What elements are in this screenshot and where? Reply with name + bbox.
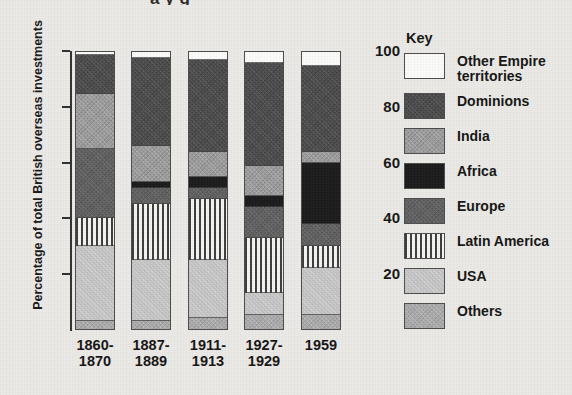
y-tick-label-40: 40	[364, 209, 400, 226]
x-label-1860-1870: 1860-1870	[64, 337, 126, 369]
legend-label-europe: Europe	[457, 198, 505, 214]
x-label-line: 1929	[233, 353, 295, 369]
legend-swatch-other-empire-territories	[404, 53, 445, 79]
y-tick-80	[62, 106, 70, 108]
bar-segment-other-empire-territories[interactable]	[189, 52, 227, 60]
bar-segment-europe[interactable]	[132, 188, 170, 205]
bar-segment-others[interactable]	[189, 318, 227, 329]
x-label-1911-1913: 1911-1913	[177, 337, 239, 369]
bar-segment-other-empire-territories[interactable]	[302, 52, 340, 66]
bar-segment-latin-america[interactable]	[245, 238, 283, 293]
bar-segment-dominions[interactable]	[76, 55, 114, 94]
bar-1927-1929[interactable]	[244, 51, 284, 330]
y-tick-label-80: 80	[364, 98, 400, 115]
legend-label-latin-america: Latin America	[457, 233, 549, 249]
legend-label-africa: Africa	[457, 163, 497, 179]
legend-swatch-others	[404, 303, 445, 329]
bar-segment-africa[interactable]	[189, 177, 227, 188]
bar-segment-usa[interactable]	[76, 246, 114, 321]
bar-segment-europe[interactable]	[189, 188, 227, 199]
legend-swatch-usa	[404, 268, 445, 294]
bar-segment-usa[interactable]	[302, 268, 340, 315]
bar-segment-others[interactable]	[245, 315, 283, 329]
legend: Key Other Empire territoriesDominionsInd…	[404, 30, 572, 338]
chart-plot-area: Percentage of total British overseas inv…	[0, 0, 400, 395]
y-tick-100	[62, 50, 70, 52]
y-tick-label-60: 60	[364, 154, 400, 171]
legend-swatch-latin-america	[404, 233, 445, 259]
bar-segment-africa[interactable]	[245, 196, 283, 207]
legend-swatch-europe	[404, 198, 445, 224]
bar-segment-dominions[interactable]	[132, 58, 170, 147]
legend-item-africa[interactable]: Africa	[404, 163, 572, 189]
legend-item-others[interactable]: Others	[404, 303, 572, 329]
bar-segment-india[interactable]	[132, 146, 170, 182]
bar-segment-dominions[interactable]	[302, 66, 340, 152]
x-label-line: 1860-	[64, 337, 126, 353]
bar-segment-africa[interactable]	[302, 163, 340, 224]
legend-item-india[interactable]: India	[404, 128, 572, 154]
bar-segment-europe[interactable]	[76, 149, 114, 218]
x-label-line: 1913	[177, 353, 239, 369]
legend-label-india: India	[457, 128, 490, 144]
x-label-line: 1870	[64, 353, 126, 369]
legend-label-dominions: Dominions	[457, 93, 529, 109]
bar-1911-1913[interactable]	[188, 51, 228, 330]
bar-segment-dominions[interactable]	[189, 60, 227, 151]
bar-1959[interactable]	[301, 51, 341, 330]
legend-item-usa[interactable]: USA	[404, 268, 572, 294]
legend-items: Other Empire territoriesDominionsIndiaAf…	[404, 53, 572, 329]
legend-item-dominions[interactable]: Dominions	[404, 93, 572, 119]
x-label-line: 1911-	[177, 337, 239, 353]
legend-swatch-africa	[404, 163, 445, 189]
bar-1887-1889[interactable]	[131, 51, 171, 330]
y-tick-label-100: 100	[364, 42, 400, 59]
legend-item-other-empire-territories[interactable]: Other Empire territories	[404, 53, 572, 84]
bar-segment-other-empire-territories[interactable]	[245, 52, 283, 63]
legend-item-latin-america[interactable]: Latin America	[404, 233, 572, 259]
legend-title: Key	[406, 30, 572, 46]
bar-segment-others[interactable]	[302, 315, 340, 329]
bar-segment-india[interactable]	[189, 152, 227, 177]
y-axis-line	[70, 51, 72, 331]
x-label-line: 1927-	[233, 337, 295, 353]
x-label-1959: 1959	[290, 337, 352, 353]
x-label-1927-1929: 1927-1929	[233, 337, 295, 369]
bar-segment-latin-america[interactable]	[76, 218, 114, 246]
y-tick-20	[62, 273, 70, 275]
bar-segment-usa[interactable]	[189, 260, 227, 318]
legend-label-others: Others	[457, 303, 502, 319]
legend-item-europe[interactable]: Europe	[404, 198, 572, 224]
x-label-line: 1889	[120, 353, 182, 369]
bar-segment-india[interactable]	[245, 166, 283, 196]
legend-swatch-dominions	[404, 93, 445, 119]
bar-segment-latin-america[interactable]	[189, 199, 227, 260]
bar-segment-europe[interactable]	[302, 224, 340, 246]
bar-segment-others[interactable]	[76, 321, 114, 329]
bar-segment-dominions[interactable]	[245, 63, 283, 165]
bar-segment-europe[interactable]	[245, 207, 283, 237]
bar-segment-india[interactable]	[76, 94, 114, 149]
bar-segment-latin-america[interactable]	[132, 204, 170, 259]
y-tick-60	[62, 162, 70, 164]
y-tick-label-20: 20	[364, 265, 400, 282]
legend-label-other-empire-territories: Other Empire territories	[457, 53, 572, 84]
y-axis-title: Percentage of total British overseas inv…	[31, 0, 45, 338]
x-label-1887-1889: 1887-1889	[120, 337, 182, 369]
bar-segment-india[interactable]	[302, 152, 340, 163]
bar-segment-latin-america[interactable]	[302, 246, 340, 268]
bar-segment-others[interactable]	[132, 321, 170, 329]
legend-label-usa: USA	[457, 268, 487, 284]
y-tick-40	[62, 217, 70, 219]
bar-1860-1870[interactable]	[75, 51, 115, 330]
bar-segment-usa[interactable]	[245, 293, 283, 315]
x-label-line: 1887-	[120, 337, 182, 353]
bar-segment-usa[interactable]	[132, 260, 170, 321]
x-label-line: 1959	[290, 337, 352, 353]
legend-swatch-india	[404, 128, 445, 154]
